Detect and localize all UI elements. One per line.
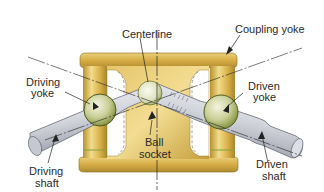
label-centerline: Centerline — [122, 28, 172, 40]
label-coupling-yoke: Coupling yoke — [235, 23, 305, 35]
label-driven-shaft-2: shaft — [262, 170, 286, 182]
label-driven-shaft: Driven — [256, 158, 288, 170]
universal-joint-diagram: Centerline Coupling yoke Driving yoke Dr… — [0, 0, 324, 192]
label-ball-socket: Ball — [145, 136, 163, 148]
driven-yoke — [204, 95, 238, 129]
label-driving-shaft-2: shaft — [35, 177, 59, 189]
label-driving-shaft: Driving — [29, 165, 63, 177]
driving-yoke — [84, 94, 116, 126]
label-ball-socket-2: socket — [139, 148, 171, 160]
label-driving-yoke-2: yoke — [31, 87, 54, 99]
label-driven-yoke-2: yoke — [253, 91, 276, 103]
